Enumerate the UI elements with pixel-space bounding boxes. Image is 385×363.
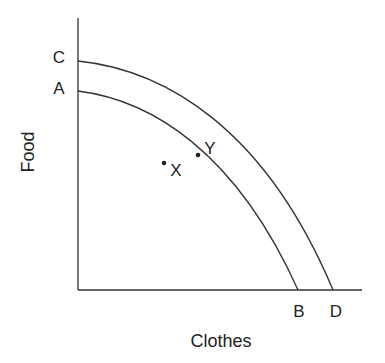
label-a: A <box>53 80 64 97</box>
y-axis-title: Food <box>19 131 37 172</box>
point-y-dot <box>196 153 201 158</box>
label-d: D <box>330 303 342 320</box>
inner-ppf-curve-ab <box>78 91 298 290</box>
point-x-dot <box>162 161 167 166</box>
outer-ppf-curve-cd <box>78 61 333 290</box>
label-x: X <box>170 162 181 179</box>
label-c: C <box>53 49 65 66</box>
label-b: B <box>293 303 304 320</box>
label-y: Y <box>204 140 215 157</box>
x-axis-title: Clothes <box>190 332 251 350</box>
